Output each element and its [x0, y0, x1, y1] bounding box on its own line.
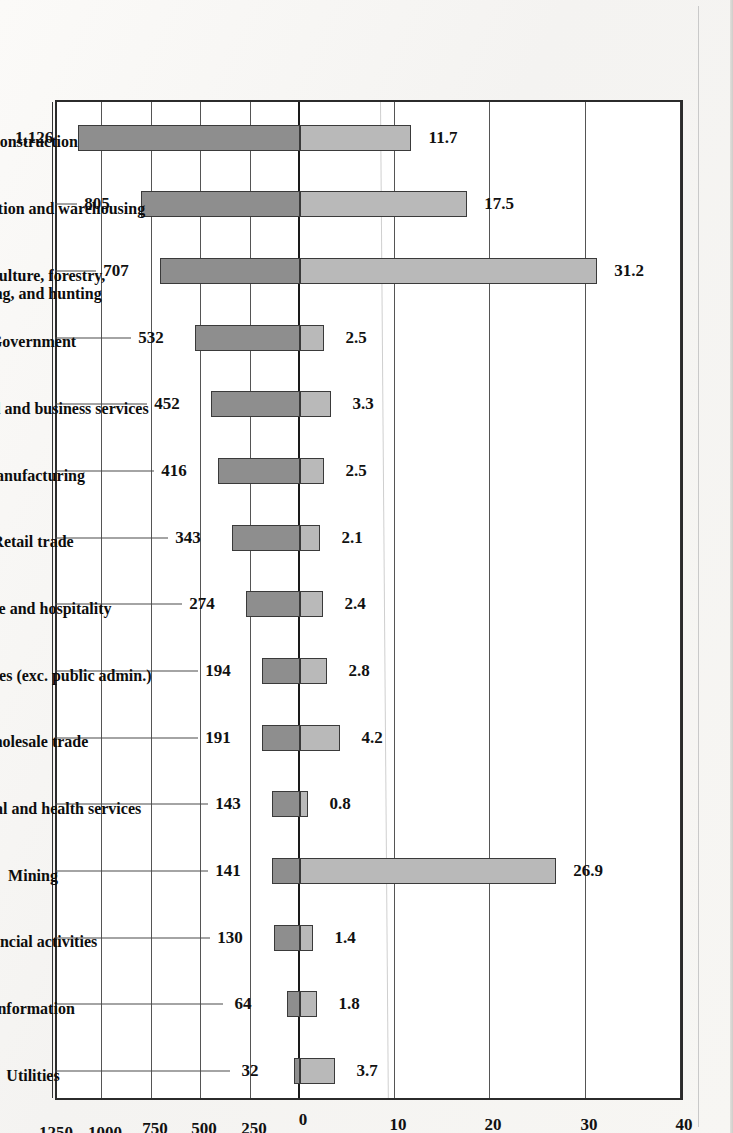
bar-rate [300, 858, 556, 884]
category-slot: 26.9141 [57, 835, 681, 906]
category-label: Manufacturing [0, 466, 85, 484]
value-label-rate: 2.1 [341, 527, 362, 547]
value-label-count: 191 [205, 727, 231, 747]
category-label-line: Manufacturing [0, 466, 85, 483]
category-slot: 4.2191 [57, 702, 681, 773]
bar-count [232, 524, 300, 550]
category-label-line: Leisure and hospitality [0, 600, 111, 617]
value-label-rate: 1.8 [338, 994, 359, 1014]
bar-rate [300, 258, 597, 284]
category-label-line: Transportation and warehousing [0, 200, 145, 217]
tick-count-1000: 1000 [88, 1123, 122, 1133]
value-label-rate: 2.8 [348, 661, 369, 681]
bar-rate [300, 724, 340, 750]
plot-area: 11.71,12617.580531.27072.55323.34522.541… [57, 102, 681, 1098]
bar-count [293, 1058, 299, 1084]
value-label-count: 32 [241, 1061, 258, 1081]
tick-rate-0: 0 [298, 1110, 307, 1130]
label-leader-line [55, 870, 208, 871]
category-label: Professional and business services [0, 400, 148, 418]
value-label-rate: 26.9 [573, 861, 603, 881]
bar-rate [300, 458, 324, 484]
page: 11.71,12617.580531.27072.55323.34522.541… [0, 0, 733, 1133]
bar-count [160, 258, 300, 284]
tick-count-750: 750 [142, 1118, 168, 1133]
value-label-rate: 3.7 [356, 1061, 377, 1081]
category-slot: 31.2707 [57, 235, 681, 306]
category-label-line: Other services (exc. public admin.) [0, 666, 151, 683]
category-label: Information [0, 1000, 74, 1018]
category-slot: 3.732 [57, 1035, 681, 1106]
category-slot: 1.864 [57, 968, 681, 1039]
value-label-count: 194 [204, 661, 230, 681]
category-label: Leisure and hospitality [0, 600, 111, 618]
value-label-count: 532 [138, 327, 164, 347]
bar-count [261, 658, 299, 684]
bar-rate [300, 324, 324, 350]
category-label-line: Agriculture, forestry, [0, 266, 105, 283]
bar-count [262, 724, 300, 750]
value-label-rate: 3.3 [352, 394, 373, 414]
value-label-count: 343 [175, 527, 201, 547]
category-label-line: Financial activities [0, 933, 97, 950]
value-label-count: 416 [161, 461, 187, 481]
caption-rule [698, 6, 699, 1127]
value-label-rate: 2.5 [345, 461, 366, 481]
bar-rate [300, 658, 327, 684]
tick-rate-40: 40 [675, 1114, 692, 1133]
value-label-rate: 31.2 [614, 261, 644, 281]
bar-count [245, 591, 299, 617]
value-label-count: 141 [215, 861, 241, 881]
category-label-line: fishing, and hunting [0, 284, 101, 301]
category-slot: 0.8143 [57, 768, 681, 839]
bar-count [272, 858, 300, 884]
label-leader-line [55, 1003, 223, 1004]
bar-rate [300, 1058, 335, 1084]
bar-rate [300, 191, 467, 217]
category-label: Mining [8, 866, 58, 884]
category-label-line: Professional and business services [0, 400, 148, 417]
bar-rate [300, 391, 331, 417]
category-label: Government [0, 333, 76, 351]
bar-count [271, 791, 299, 817]
bar-count [194, 324, 299, 350]
category-label-line: Construction [0, 133, 77, 150]
value-label-rate: 0.8 [329, 794, 350, 814]
bar-rate [300, 591, 323, 617]
value-label-rate: 17.5 [483, 194, 513, 214]
category-label: Other services (exc. public admin.) [0, 666, 151, 684]
category-label: Educational and health services [0, 800, 141, 818]
category-slot: 3.3452 [57, 368, 681, 439]
category-label-line: Government [0, 333, 76, 350]
tick-count-1250: 1250 [39, 1123, 73, 1133]
category-slot: 1.4130 [57, 902, 681, 973]
category-slot: 11.71,126 [57, 102, 681, 173]
value-label-rate: 2.4 [344, 594, 365, 614]
bar-rate [300, 524, 320, 550]
category-label-line: Educational and health services [0, 800, 141, 817]
value-label-rate: 2.5 [345, 327, 366, 347]
chart-frame: 11.71,12617.580531.27072.55323.34522.541… [55, 100, 683, 1100]
value-label-count: 452 [153, 394, 179, 414]
category-label: Utilities [6, 1066, 59, 1084]
category-slot: 2.5416 [57, 435, 681, 506]
value-label-count: 130 [217, 927, 243, 947]
value-label-rate: 1.4 [334, 927, 355, 947]
bar-rate [300, 991, 317, 1017]
value-label-rate: 4.2 [361, 727, 382, 747]
value-label-count: 64 [234, 994, 251, 1014]
tick-count-500: 500 [191, 1118, 217, 1133]
category-slot: 17.5805 [57, 168, 681, 239]
category-label-line: Utilities [6, 1066, 59, 1083]
category-label-line: Mining [8, 866, 58, 883]
value-label-count: 274 [189, 594, 215, 614]
category-label-line: Information [0, 1000, 74, 1017]
bar-rate [300, 124, 411, 150]
bar-count [217, 458, 299, 484]
category-label: Wholesale trade [0, 733, 88, 751]
category-label-line: Retail trade [0, 533, 73, 550]
category-slot: 2.4274 [57, 568, 681, 639]
tick-rate-10: 10 [389, 1114, 406, 1133]
category-label: Financial activities [0, 933, 97, 951]
bar-count [77, 124, 299, 150]
